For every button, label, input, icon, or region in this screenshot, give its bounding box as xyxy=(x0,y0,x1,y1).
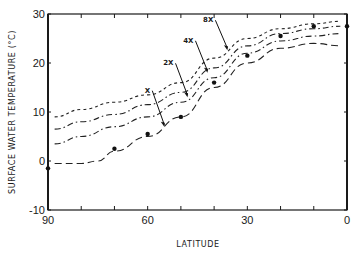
x-tick-label: 60 xyxy=(142,214,154,226)
observed-point xyxy=(179,115,183,119)
y-tick-label: 10 xyxy=(33,106,45,118)
annotation-arrow xyxy=(195,41,207,71)
y-tick-label: -10 xyxy=(29,204,45,216)
y-tick-label: 30 xyxy=(33,8,45,20)
curve-x xyxy=(55,43,341,163)
annotation-label: 2X xyxy=(163,59,174,67)
y-axis-title: SURFACE WATER TEMPERATURE (°C) xyxy=(8,30,17,194)
plot-frame xyxy=(48,14,347,210)
y-tick-label: 0 xyxy=(39,155,45,167)
curve-2x xyxy=(55,34,341,144)
annotation-label: 8X xyxy=(203,16,214,24)
observed-point xyxy=(212,80,216,84)
observed-point xyxy=(46,166,50,170)
annotation-arrow xyxy=(152,91,164,125)
observed-point xyxy=(245,53,249,57)
curve-annotations: X2X4X8X xyxy=(145,16,228,126)
arrowhead-icon xyxy=(161,122,165,127)
arrowhead-icon xyxy=(224,45,228,50)
x-axis-title: LATITUDE xyxy=(176,240,220,249)
observed-point xyxy=(345,24,349,28)
observed-point xyxy=(278,34,282,38)
annotation-label: X xyxy=(145,87,151,95)
observed-point xyxy=(112,147,116,151)
observed-point xyxy=(312,24,316,28)
arrowhead-icon xyxy=(184,92,188,97)
x-tick-label: 0 xyxy=(344,214,350,226)
x-tick-label: 30 xyxy=(241,214,253,226)
y-tick-label: 20 xyxy=(33,57,45,69)
annotation-arrow xyxy=(215,20,227,48)
annotation-arrow xyxy=(176,63,188,95)
observed-point xyxy=(145,132,149,136)
model-curves xyxy=(55,21,341,163)
curve-4x xyxy=(55,26,341,129)
annotation-label: 4X xyxy=(183,37,194,45)
temperature-latitude-chart: 90603003020100-10 X2X4X8X LATITUDE SURFA… xyxy=(0,0,360,258)
curve-8x xyxy=(55,21,341,117)
